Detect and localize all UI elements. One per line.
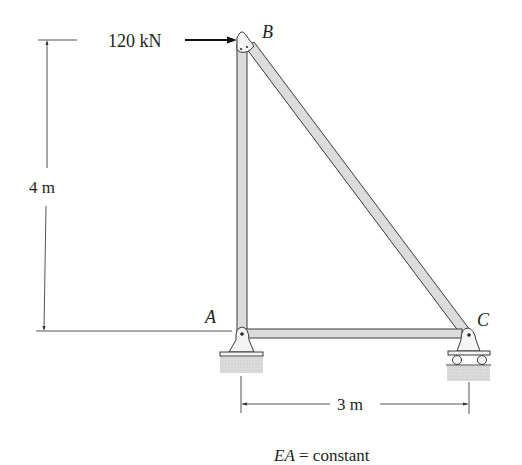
width-label: 3 m	[337, 395, 363, 414]
load-label: 120 kN	[108, 31, 162, 51]
truss-members	[237, 42, 470, 338]
truss-diagram: 4 m 3 m	[0, 0, 522, 465]
member-ab	[237, 44, 247, 334]
ea-symbol: EA	[273, 446, 295, 465]
member-ac	[245, 329, 462, 338]
height-dimension: 4 m	[29, 40, 232, 331]
ea-text: = constant	[295, 446, 370, 465]
joint-label-b: B	[262, 22, 273, 42]
joint-label-a: A	[204, 307, 217, 327]
width-dimension: 3 m	[241, 376, 469, 414]
joint-b	[237, 32, 254, 53]
load-120kn: 120 kN	[108, 31, 237, 51]
ea-constant-note: EA = constant	[273, 446, 370, 465]
joint-label-c: C	[477, 310, 490, 330]
member-bc	[246, 42, 470, 336]
height-label: 4 m	[29, 178, 55, 197]
